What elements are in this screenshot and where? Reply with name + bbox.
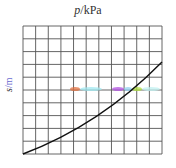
marker-smudge	[112, 87, 124, 91]
marker-smudge	[70, 87, 80, 91]
chart-plot	[0, 0, 176, 168]
marker-smudge	[80, 87, 102, 91]
marker-smudge	[142, 87, 160, 91]
data-curve	[23, 62, 162, 154]
